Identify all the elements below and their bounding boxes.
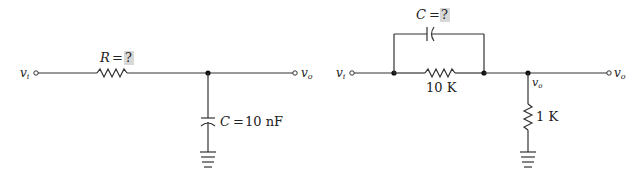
capacitor-label: C = ?: [416, 7, 450, 22]
svg-text:?: ?: [125, 50, 132, 65]
circuit-compensated-divider: vi C = ? 10 K vo vo: [336, 7, 626, 167]
svg-text:10 nF: 10 nF: [245, 114, 283, 129]
svg-text:C: C: [416, 7, 426, 22]
output-terminal: [293, 71, 297, 75]
resistor-icon: [97, 69, 127, 77]
svg-text:C: C: [220, 114, 230, 129]
input-terminal: [34, 71, 38, 75]
ground-icon: [200, 152, 216, 167]
svg-text:=: =: [429, 7, 440, 22]
output-label: vo: [614, 66, 626, 81]
circuit-diagrams: vi R = ? vo C = 10 nF: [0, 0, 638, 185]
svg-text:=: =: [112, 50, 123, 65]
input-label: vi: [20, 66, 30, 81]
resistor-icon: [524, 104, 532, 130]
output-label: vo: [301, 66, 313, 81]
series-resistor-label: 10 K: [426, 80, 457, 95]
output-terminal: [607, 71, 611, 75]
ground-icon: [520, 152, 536, 167]
capacitor-label: C = 10 nF: [220, 114, 283, 129]
svg-text:?: ?: [441, 7, 448, 22]
svg-text:R: R: [99, 50, 110, 65]
resistor-label: R = ?: [99, 50, 134, 65]
svg-text:=: =: [233, 114, 244, 129]
circuit-rc-lowpass: vi R = ? vo C = 10 nF: [20, 50, 313, 167]
resistor-icon: [425, 69, 455, 77]
input-terminal: [350, 71, 354, 75]
shunt-resistor-label: 1 K: [536, 109, 558, 124]
node-label: vo: [532, 76, 542, 90]
input-label: vi: [336, 66, 346, 81]
